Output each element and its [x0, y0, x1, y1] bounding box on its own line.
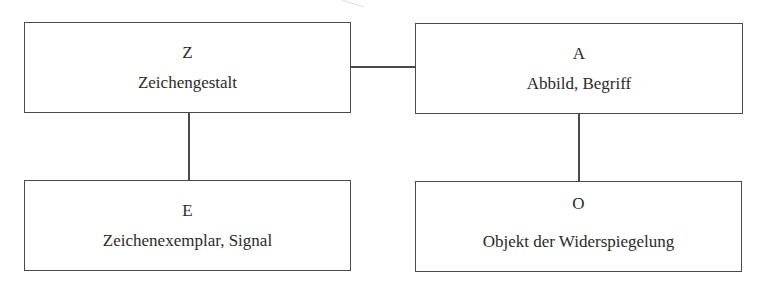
node-e-label: Zeichenexemplar, Signal — [103, 231, 272, 251]
node-o-objekt-der-widerspiegelung: O Objekt der Widerspiegelung — [415, 181, 742, 272]
node-e-zeichenexemplar-signal: E Zeichenexemplar, Signal — [24, 180, 351, 271]
scan-smudge — [336, 0, 365, 8]
edge-z-to-e — [188, 112, 190, 181]
node-o-label: Objekt der Widerspiegelung — [483, 232, 675, 252]
node-a-abbild-begriff: A Abbild, Begriff — [415, 23, 743, 114]
node-z-label: Zeichengestalt — [138, 73, 237, 93]
edge-z-to-a — [350, 66, 416, 68]
edge-a-to-o — [578, 113, 580, 182]
node-o-symbol: O — [572, 194, 584, 214]
node-e-symbol: E — [182, 201, 192, 221]
node-a-symbol: A — [573, 44, 585, 64]
node-z-symbol: Z — [182, 43, 192, 63]
node-a-label: Abbild, Begriff — [527, 74, 632, 94]
node-z-zeichengestalt: Z Zeichengestalt — [24, 22, 351, 113]
